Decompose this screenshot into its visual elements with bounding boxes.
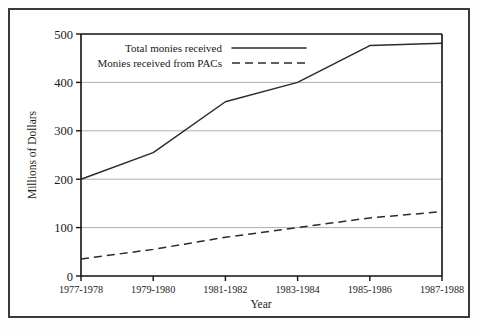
y-axis-title: Millions of Dollars (26, 110, 38, 199)
y-tick-label: 200 (54, 173, 73, 187)
line-chart: 0100200300400500 1977-19781979-19801981-… (0, 0, 481, 330)
chart-legend: Total monies received Monies received fr… (97, 42, 306, 69)
chart-figure: 0100200300400500 1977-19781979-19801981-… (0, 0, 481, 330)
series-monies-received-from-pacs (81, 212, 442, 259)
x-axis-title: Year (250, 298, 271, 310)
y-tick-label: 500 (54, 28, 73, 42)
y-tick-labels: 0100200300400500 (54, 28, 73, 284)
x-tick-label: 1977-1978 (59, 284, 103, 295)
y-tick-label: 400 (54, 76, 73, 90)
y-tick-label: 300 (54, 124, 73, 138)
x-tick-labels: 1977-19781979-19801981-19821983-19841985… (59, 284, 464, 295)
plot-axes (81, 34, 442, 276)
y-tick-label: 0 (67, 270, 73, 284)
gridlines (81, 82, 442, 227)
x-tick-label: 1985-1986 (348, 284, 392, 295)
x-tick-label: 1987-1988 (420, 284, 464, 295)
legend-label-monies-received-from-pacs: Monies received from PACs (97, 57, 222, 69)
y-tick-label: 100 (54, 221, 73, 235)
data-series (81, 43, 442, 259)
x-tick-label: 1981-1982 (203, 284, 247, 295)
x-tick-label: 1983-1984 (276, 284, 320, 295)
x-tick-label: 1979-1980 (131, 284, 175, 295)
legend-label-total-monies-received: Total monies received (125, 42, 222, 54)
